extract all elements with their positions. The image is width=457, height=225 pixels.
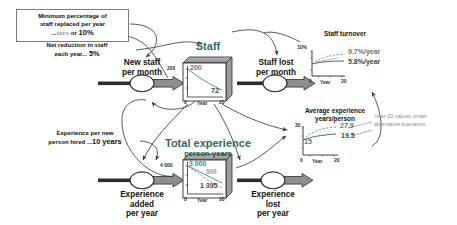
exp-chart-y-label: 4 000 bbox=[160, 162, 173, 168]
net-reduction-line1: Net reduction in staff bbox=[47, 41, 108, 48]
chart-title-average-experience: Average experience years/person bbox=[288, 107, 382, 122]
exp-lost-line3: per year bbox=[257, 209, 289, 218]
exp-added-line2: added bbox=[130, 200, 154, 209]
turnover-x-zero: 0 bbox=[309, 78, 312, 84]
callout-experience-per-hire: Experience per new person hired ...10 ye… bbox=[30, 129, 140, 147]
staff-chart-x-max: 20 bbox=[219, 99, 225, 105]
turnover-dashed-value: 9.7%/year bbox=[348, 48, 380, 55]
callout-min-pct: 10% bbox=[78, 28, 93, 37]
stock-title-staff: Staff bbox=[176, 40, 240, 52]
callout-min-line2: staff replaced per year bbox=[40, 20, 105, 27]
exp-chart-end-value: 1 395 bbox=[200, 182, 218, 189]
callout-net-reduction: Net reduction in staff each year... 5% bbox=[26, 41, 128, 59]
exp-chart-start-value: 3 000 bbox=[189, 160, 207, 167]
turnover-solid-value: 5.8%/year bbox=[348, 58, 380, 65]
staff-chart-end-value: 72 bbox=[211, 87, 219, 94]
callout-year20-values: Year-20 values under alternative scenari… bbox=[374, 113, 456, 129]
exp-hire-value: 10 years bbox=[92, 137, 122, 146]
net-reduction-prefix: each year... bbox=[54, 50, 89, 57]
flow-new-staff bbox=[98, 75, 184, 92]
exp-added-line3: per year bbox=[126, 209, 158, 218]
callout-minimum-replacement: Minimum percentage of staff replaced per… bbox=[16, 9, 129, 42]
staff-chart-start-value: 200 bbox=[190, 64, 202, 71]
total-exp-title-line2: person-years bbox=[152, 149, 264, 158]
staff-chart-x-label: Year bbox=[197, 100, 208, 106]
chart-title-staff-turnover: Staff turnover bbox=[300, 30, 390, 38]
new-staff-line2: per month bbox=[122, 68, 162, 77]
stock-title-total-experience: Total experience person-years bbox=[152, 137, 264, 158]
exp-hire-line1: Experience per new bbox=[56, 129, 113, 136]
staff-title-text: Staff bbox=[176, 40, 240, 52]
flow-label-experience-lost: Experience lost per year bbox=[239, 190, 307, 219]
exp-chart-mid-value: 999 bbox=[206, 168, 217, 175]
staff-chart-y-label: 200 bbox=[167, 65, 175, 71]
exp-chart-x-zero: 0 bbox=[184, 196, 187, 202]
avgexp-start-value: 15 bbox=[304, 138, 312, 145]
exp-lost-line1: Experience bbox=[251, 190, 295, 199]
exp-chart-x-max: 20 bbox=[219, 196, 225, 202]
callout-min-line1: Minimum percentage of bbox=[38, 12, 106, 19]
avgexp-title-line1: Average experience bbox=[305, 107, 365, 114]
exp-chart-x-label: Year bbox=[197, 197, 208, 203]
flow-label-experience-added: Experience added per year bbox=[108, 190, 176, 219]
avgexp-x-max: 20 bbox=[334, 157, 340, 163]
exp-hire-prefix: person hired ... bbox=[48, 138, 92, 145]
new-staff-line1: New staff bbox=[124, 58, 160, 67]
turnover-y-label: 10% bbox=[297, 44, 307, 50]
flow-staff-lost bbox=[237, 75, 315, 92]
flow-experience-added bbox=[98, 172, 184, 189]
avgexp-x-label: Year bbox=[312, 158, 323, 164]
avgexp-x-zero: 0 bbox=[300, 157, 303, 163]
diagram-canvas: Minimum percentage of staff replaced per… bbox=[0, 0, 457, 225]
flow-experience-lost bbox=[237, 172, 313, 189]
turnover-x-max: 20 bbox=[341, 78, 347, 84]
avgexp-dashed-value: 27.9 bbox=[340, 122, 354, 129]
avgexp-solid-value: 19.5 bbox=[341, 132, 355, 139]
chart-staff-turnover bbox=[311, 50, 346, 78]
net-reduction-value: 5% bbox=[89, 49, 100, 58]
flow-label-new-staff: New staff per month bbox=[108, 58, 176, 77]
exp-added-line1: Experience bbox=[120, 190, 164, 199]
callout-min-zero: zero bbox=[56, 29, 69, 36]
staff-chart-x-zero: 0 bbox=[184, 99, 187, 105]
avgexp-title-line2: years/person bbox=[315, 115, 355, 122]
avgexp-y-label: 30 bbox=[295, 122, 301, 128]
staff-lost-line1: Staff lost bbox=[258, 58, 293, 67]
staff-lost-line2: per month bbox=[256, 68, 296, 77]
total-exp-title-line1: Total experience bbox=[152, 137, 264, 149]
turnover-x-label: Year bbox=[320, 79, 331, 85]
exp-lost-line2: lost bbox=[266, 200, 281, 209]
flow-label-staff-lost: Staff lost per month bbox=[242, 58, 310, 77]
